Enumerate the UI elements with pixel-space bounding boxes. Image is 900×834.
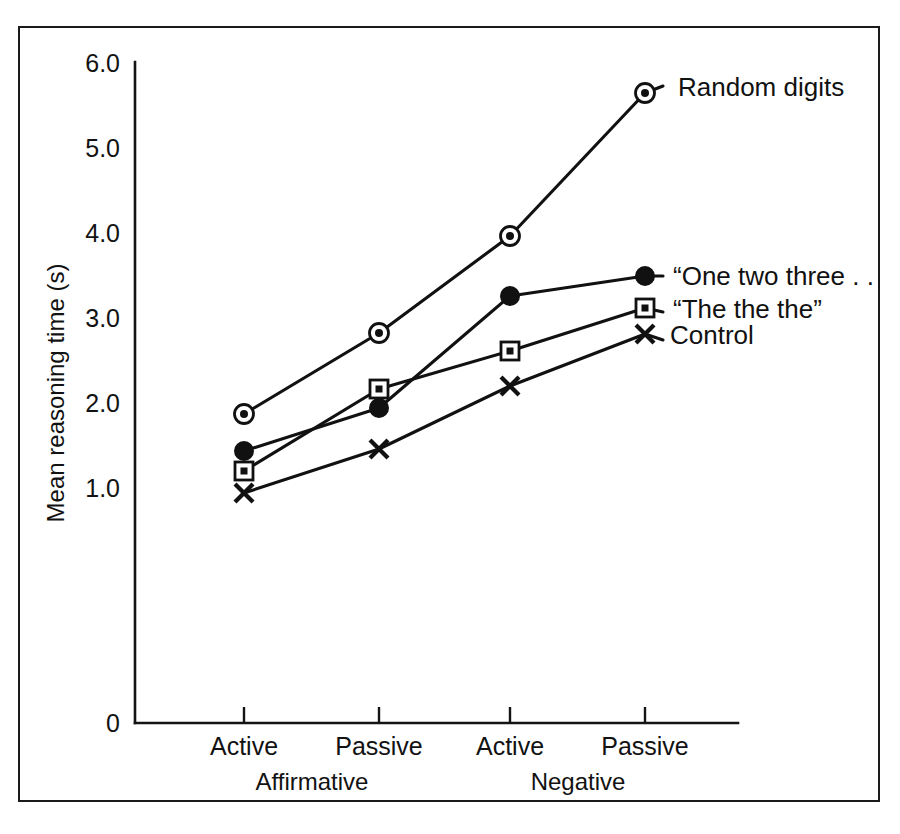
figure-page: 6.0 5.0 4.0 3.0 2.0 1.0 0 Mean reasoning… — [0, 0, 900, 834]
series-marker-the-the-the-2 — [501, 342, 519, 360]
y-tick-label-3: 3.0 — [85, 304, 120, 332]
y-tick-label-5: 5.0 — [85, 134, 120, 162]
x-tick-label-3: Passive — [601, 732, 689, 760]
y-tick-label-1: 1.0 — [85, 474, 120, 502]
series-line-the-the-the — [244, 308, 645, 471]
x-tick-label-1: Passive — [335, 732, 423, 760]
series-marker-control-1 — [370, 440, 388, 458]
series-marker-one-two-three-3 — [636, 267, 654, 285]
series-line-random-digits — [244, 93, 645, 414]
series-marker-one-two-three-0 — [235, 442, 253, 460]
series-marker-random-digits-2 — [501, 227, 520, 246]
series-label-control: Control — [670, 320, 754, 350]
x-tick-label-2: Active — [476, 732, 544, 760]
series-marker-the-the-the-1 — [370, 380, 388, 398]
series-label-random-digits: Random digits — [678, 72, 844, 102]
series-marker-control-3 — [636, 325, 654, 343]
series-marker-control-2 — [501, 377, 519, 395]
line-chart: 6.0 5.0 4.0 3.0 2.0 1.0 0 Mean reasoning… — [20, 28, 878, 800]
series-marker-one-two-three-1 — [370, 399, 388, 417]
series-marker-random-digits-0 — [235, 405, 254, 424]
figure-frame: 6.0 5.0 4.0 3.0 2.0 1.0 0 Mean reasoning… — [18, 26, 880, 802]
series-marker-random-digits-1 — [370, 324, 389, 343]
series-line-control — [244, 334, 645, 493]
x-group-label-affirmative: Affirmative — [256, 768, 369, 795]
series-marker-control-0 — [235, 484, 253, 502]
series-marker-the-the-the-3 — [636, 299, 654, 317]
series-marker-one-two-three-2 — [501, 287, 519, 305]
y-tick-label-6: 6.0 — [85, 49, 120, 77]
y-tick-label-4: 4.0 — [85, 219, 120, 247]
series-marker-random-digits-3 — [636, 84, 655, 103]
series-label-one-two-three: “One two three . . .” — [673, 261, 878, 291]
series-line-one-two-three — [244, 276, 645, 451]
y-tick-label-0: 0 — [106, 709, 120, 737]
y-axis-title: Mean reasoning time (s) — [42, 264, 69, 523]
series-marker-the-the-the-0 — [235, 462, 253, 480]
y-tick-label-2: 2.0 — [85, 389, 120, 417]
x-group-label-negative: Negative — [531, 768, 626, 795]
x-tick-label-0: Active — [210, 732, 278, 760]
